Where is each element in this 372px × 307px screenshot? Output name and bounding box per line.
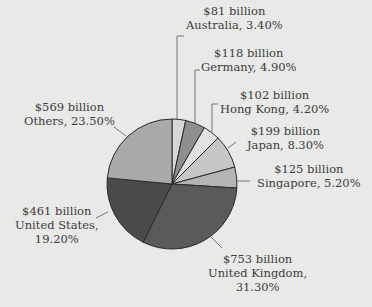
label-uk: $753 billion United Kingdom, 31.30%: [208, 252, 307, 294]
pct-label: Hong Kong, 4.20%: [220, 102, 329, 116]
label-australia: $81 billion Australia, 3.40%: [186, 4, 283, 32]
label-us: $461 billion United States, 19.20%: [15, 204, 99, 246]
value-label: $125 billion: [257, 162, 361, 176]
pct-label: Australia, 3.40%: [186, 18, 283, 32]
value-label: $569 billion: [24, 100, 115, 114]
label-hongkong: $102 billion Hong Kong, 4.20%: [220, 88, 329, 116]
pct-label-2: 19.20%: [15, 232, 99, 246]
pct-label: Others, 23.50%: [24, 114, 115, 128]
label-germany: $118 billion Germany, 4.90%: [201, 46, 296, 74]
value-label: $753 billion: [208, 252, 307, 266]
pie-chart: [0, 0, 372, 307]
pct-label: Japan, 8.30%: [247, 138, 324, 152]
value-label: $81 billion: [186, 4, 283, 18]
label-japan: $199 billion Japan, 8.30%: [247, 124, 324, 152]
leader-uk: [210, 236, 222, 248]
pct-label: United States,: [15, 218, 99, 232]
leader-australia: [177, 36, 184, 120]
leader-germany: [195, 70, 200, 123]
pie-slices: [107, 119, 237, 249]
pct-label: United Kingdom,: [208, 266, 307, 280]
leader-hongkong: [212, 104, 218, 132]
leader-others: [114, 127, 126, 136]
value-label: $102 billion: [220, 88, 329, 102]
pct-label-2: 31.30%: [208, 280, 307, 294]
value-label: $118 billion: [201, 46, 296, 60]
pct-label: Singapore, 5.20%: [257, 176, 361, 190]
pct-label: Germany, 4.90%: [201, 60, 296, 74]
value-label: $461 billion: [15, 204, 99, 218]
label-others: $569 billion Others, 23.50%: [24, 100, 115, 128]
value-label: $199 billion: [247, 124, 324, 138]
leader-japan: [228, 142, 236, 148]
label-singapore: $125 billion Singapore, 5.20%: [257, 162, 361, 190]
